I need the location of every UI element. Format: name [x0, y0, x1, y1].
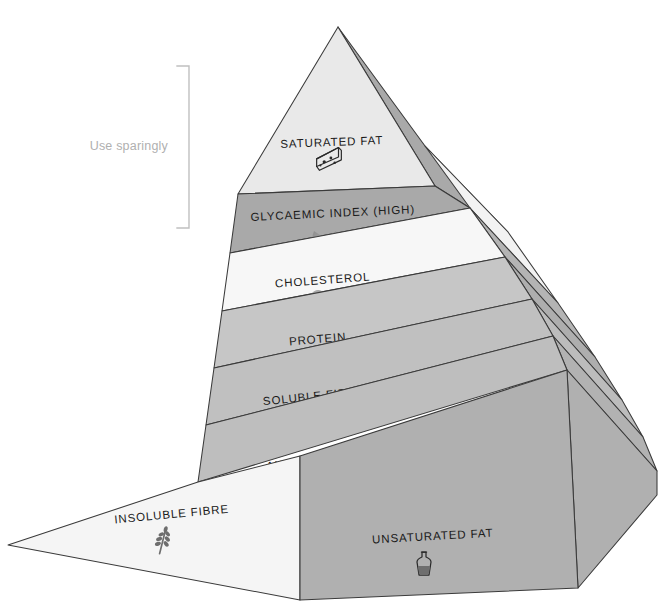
use-sparingly-label: Use sparingly	[90, 139, 169, 153]
pyramid-diagram-canvas: SATURATED FAT GLYCAEMIC INDEX (HIGH) CHO…	[0, 0, 665, 607]
tier-face-saturated-fat[interactable]	[238, 27, 435, 194]
tier-face-insoluble-fibre[interactable]	[8, 456, 300, 600]
use-sparingly-bracket: Use sparingly	[90, 66, 189, 228]
food-pyramid-graphic: SATURATED FAT GLYCAEMIC INDEX (HIGH) CHO…	[0, 0, 665, 607]
pyramid-front-face: SATURATED FAT GLYCAEMIC INDEX (HIGH) CHO…	[8, 27, 578, 600]
